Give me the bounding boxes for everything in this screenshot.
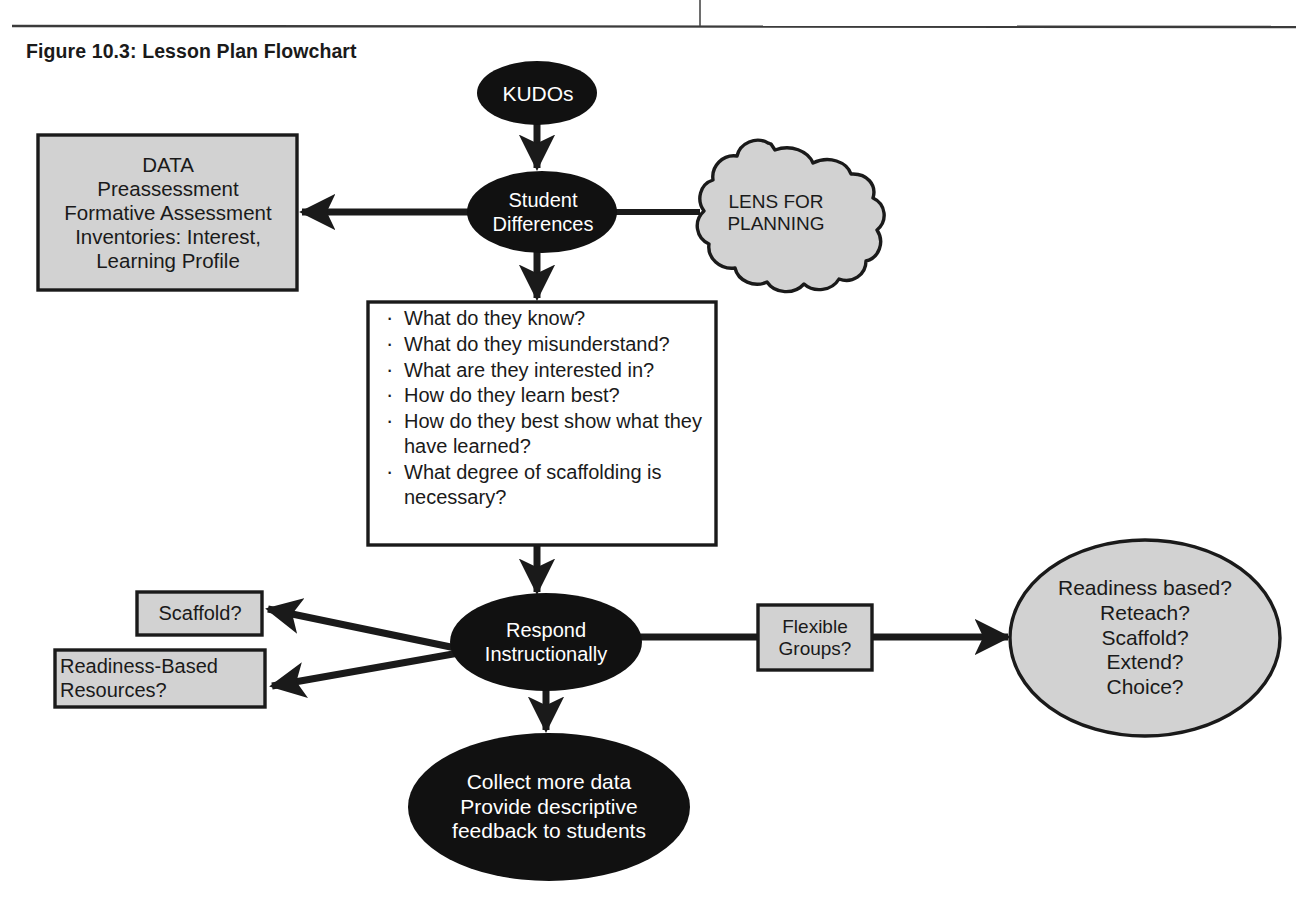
student-differences-ellipse: [467, 171, 617, 253]
edge-respond-to-readiness: [272, 651, 470, 686]
scaffold-box: [137, 592, 262, 635]
flowchart-canvas: [0, 0, 1305, 909]
header-rule: [12, 0, 1296, 27]
figure-page: Figure 10.3: Lesson Plan Flowchart: [0, 0, 1305, 909]
data-box: [38, 135, 297, 290]
lens-for-planning-cloud: [697, 140, 884, 291]
response-options-ellipse: [1010, 540, 1280, 736]
kudos-ellipse: [477, 61, 597, 125]
guiding-questions-box: [368, 302, 716, 545]
flexible-groups-box: [758, 605, 872, 670]
respond-instructionally-ellipse: [450, 593, 642, 691]
edge-respond-to-scaffold: [268, 609, 470, 651]
readiness-resources-box: [55, 650, 265, 707]
collect-data-ellipse: [408, 733, 690, 881]
